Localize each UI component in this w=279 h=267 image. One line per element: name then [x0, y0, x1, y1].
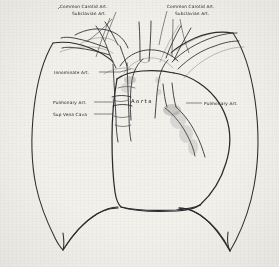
label-left-common-carotid: Common Carotid Art. [60, 4, 108, 9]
label-left-subclavian: Subclavian Art. [72, 11, 106, 16]
label-innominate-artery: Innominate Art. [54, 70, 89, 75]
label-right-subclavian: Subclavian Art. [175, 11, 209, 16]
left-hilar-shading [121, 76, 162, 95]
trachea [139, 21, 151, 63]
superior-vena-cava [113, 63, 131, 142]
figure-root: Common Carotid Art. Subclavian Art. Comm… [0, 0, 279, 267]
leader-right-subclavian-2 [180, 19, 189, 53]
diaphragm-left [63, 208, 118, 250]
right-pulmonary-artery [163, 83, 205, 157]
label-right-common-carotid: Common Carotid Art. [167, 4, 215, 9]
right-subclavian-artery [172, 33, 244, 78]
leader-innominate-2 [120, 69, 131, 72]
innominate-artery [104, 46, 136, 74]
ascending-aorta [130, 59, 168, 120]
label-layer: Common Carotid Art. Subclavian Art. Comm… [53, 4, 238, 117]
label-right-pulmonary-artery: Pulmonary Art. [204, 101, 238, 106]
label-aorta: Aorta [131, 98, 153, 104]
leader-right-carotid [159, 11, 167, 45]
label-superior-vena-cava: Sup Vena Cava [53, 112, 87, 117]
diaphragm [63, 208, 230, 251]
cardiac-silhouette [112, 71, 230, 212]
label-left-pulmonary-artery: Pulmonary Art. [53, 100, 87, 105]
anatomy-drawing: Common Carotid Art. Subclavian Art. Comm… [0, 0, 279, 267]
diaphragm-right [179, 208, 230, 251]
